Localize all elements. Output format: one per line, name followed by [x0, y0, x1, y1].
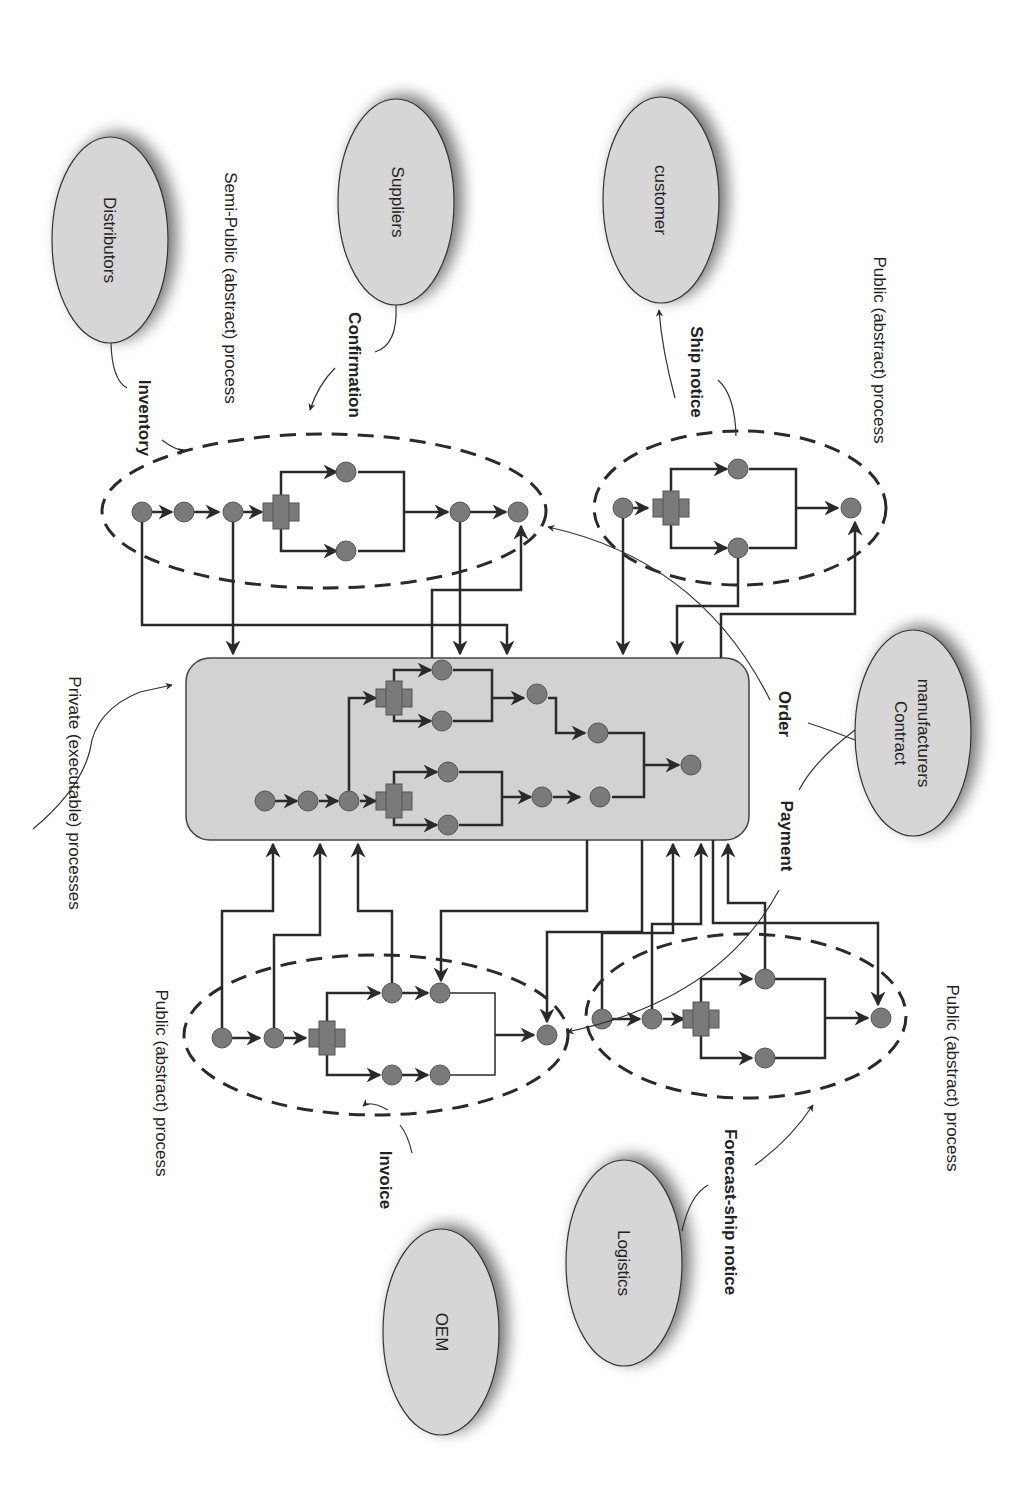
gateway-icon — [263, 495, 299, 529]
partner-label-logistics: Logistics — [614, 1230, 633, 1296]
message-payment: Payment — [777, 801, 796, 872]
partner-label-suppliers: Suppliers — [388, 167, 407, 238]
message-inventory: Inventory — [135, 380, 154, 457]
message-confirmation: Confirmation — [345, 312, 364, 418]
b2b-process-diagram: Distributors Suppliers customer Contract… — [0, 0, 1028, 1487]
public-process-ellipse-bottom-right — [586, 934, 906, 1098]
message-order: Order — [775, 691, 794, 738]
partner-label-distributors: Distributors — [100, 197, 119, 283]
label-public-process-left: Public (abstract) process — [152, 989, 171, 1176]
message-invoice: Invoice — [376, 1151, 395, 1210]
gateway-icon — [653, 491, 689, 525]
gateway-icon — [309, 1021, 345, 1055]
interconnect-top — [142, 518, 855, 658]
partner-label-contract-line2: manufacturers — [914, 679, 933, 788]
partner-contract-manufacturers — [855, 630, 971, 836]
partner-label-oem: OEM — [432, 1313, 451, 1352]
gateway-icon — [683, 1002, 719, 1036]
semi-public-nodes — [132, 462, 528, 561]
message-ship-notice: Ship notice — [687, 326, 706, 418]
label-public-process-bottom-right: Public (abstract) process — [943, 984, 962, 1171]
private-process-box — [186, 658, 749, 840]
message-forecast-ship-notice: Forecast-ship notice — [721, 1129, 740, 1295]
label-private-processes: Private (executable) processes — [65, 676, 84, 909]
label-semi-public-process: Semi-Public (abstract) process — [221, 172, 240, 403]
partner-label-customer: customer — [651, 165, 670, 235]
label-public-process-top-right: Public (abstract) process — [870, 256, 889, 443]
partner-label-contract-line1: Contract — [891, 701, 910, 766]
